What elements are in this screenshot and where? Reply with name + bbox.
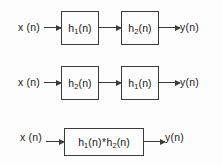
block-h1[interactable]: h1(n) bbox=[121, 66, 159, 100]
arrow-block2-to-output bbox=[159, 82, 180, 83]
block-h2[interactable]: h2(n) bbox=[61, 66, 99, 100]
output-signal-label: y(n) bbox=[180, 77, 199, 88]
block-diagram-figure: x (n) h1(n) h2(n) y(n) x (n) h2(n) h1(n)… bbox=[0, 0, 222, 165]
diagram-row-combined-convolution: x (n) h1(n)*h2(n) y(n) bbox=[0, 110, 222, 165]
arrow-block2-to-output bbox=[159, 27, 180, 28]
block-h1[interactable]: h1(n) bbox=[61, 11, 99, 45]
block-h2-label: h2(n) bbox=[128, 23, 151, 34]
input-signal-label: x (n) bbox=[18, 77, 40, 88]
diagram-row-cascade-h1-then-h2: x (n) h1(n) h2(n) y(n) bbox=[0, 0, 222, 55]
arrow-input-to-block1 bbox=[44, 82, 61, 83]
block-h1-label: h1(n) bbox=[128, 78, 151, 89]
block-h1-conv-h2-label: h1(n)*h2(n) bbox=[78, 137, 130, 148]
arrow-block-to-output bbox=[144, 141, 165, 142]
diagram-row-cascade-h2-then-h1: x (n) h2(n) h1(n) y(n) bbox=[0, 55, 222, 110]
block-h1-label: h1(n) bbox=[68, 23, 91, 34]
block-h2[interactable]: h2(n) bbox=[121, 11, 159, 45]
output-signal-label: y(n) bbox=[165, 132, 184, 143]
block-h1-conv-h2[interactable]: h1(n)*h2(n) bbox=[64, 128, 144, 156]
input-signal-label: x (n) bbox=[18, 22, 40, 33]
input-signal-label: x (n) bbox=[20, 132, 42, 143]
arrow-block1-to-block2 bbox=[99, 27, 121, 28]
output-signal-label: y(n) bbox=[180, 22, 199, 33]
arrow-input-to-block1 bbox=[44, 27, 61, 28]
block-h2-label: h2(n) bbox=[68, 78, 91, 89]
arrow-block1-to-block2 bbox=[99, 82, 121, 83]
arrow-input-to-block bbox=[46, 141, 64, 142]
